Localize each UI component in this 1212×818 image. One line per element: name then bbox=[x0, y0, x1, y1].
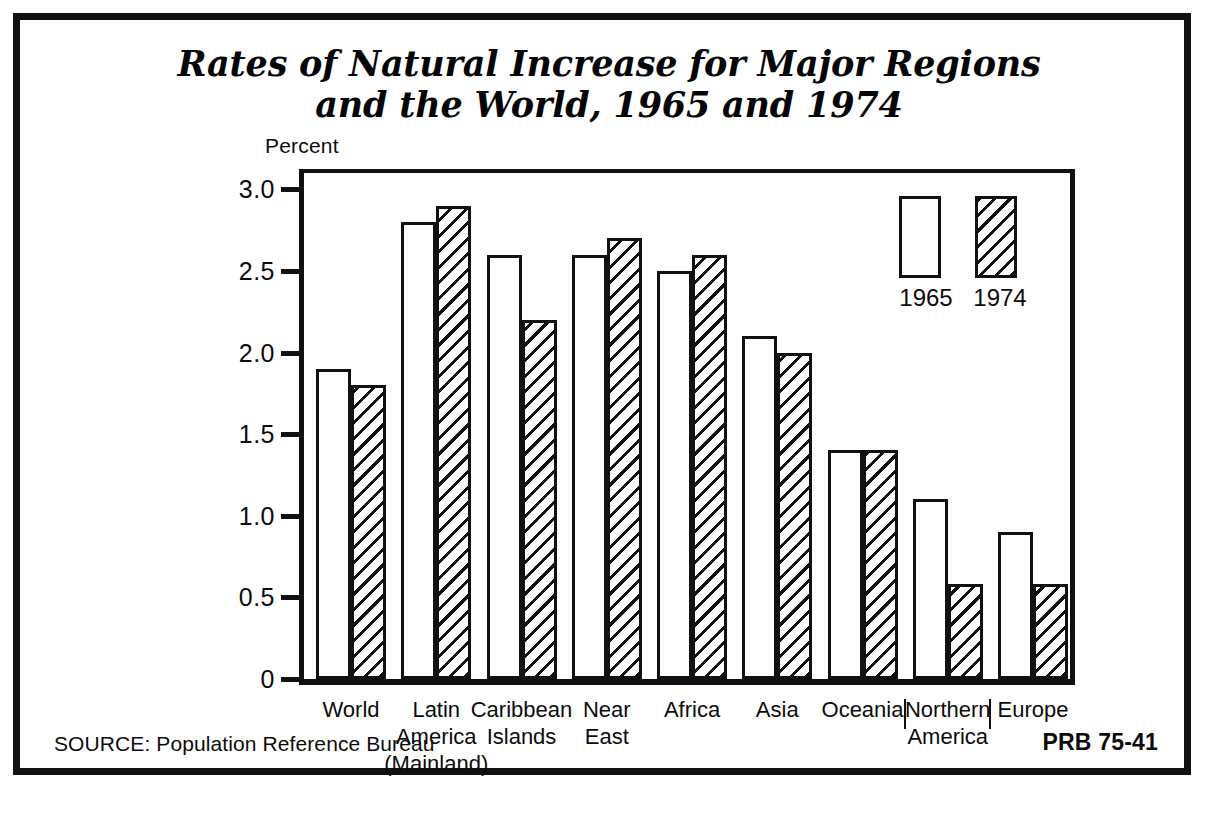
bar-group bbox=[572, 173, 642, 679]
y-axis-tick bbox=[281, 187, 299, 192]
bar-1965 bbox=[913, 499, 948, 679]
y-axis-tick-label: 1.5 bbox=[239, 420, 275, 449]
bar-1965 bbox=[401, 222, 436, 679]
legend-swatches bbox=[899, 196, 1017, 278]
publication-code: PRB 75-41 bbox=[1042, 729, 1158, 756]
bar-1965 bbox=[828, 450, 863, 679]
legend-label-1965: 1965 bbox=[895, 284, 957, 312]
y-axis-tick-label: 3.0 bbox=[239, 175, 275, 204]
y-axis-unit-label: Percent bbox=[265, 134, 339, 158]
chart-title-line-1: Rates of Natural Increase for Major Regi… bbox=[20, 44, 1198, 83]
chart-title-line-2: and the World, 1965 and 1974 bbox=[20, 85, 1198, 124]
y-axis-tick-label: 0 bbox=[261, 665, 275, 694]
bar-group bbox=[316, 173, 386, 679]
category-divider bbox=[904, 699, 906, 729]
bar-group bbox=[401, 173, 471, 679]
bar-1965 bbox=[657, 271, 692, 679]
bar-1965 bbox=[742, 336, 777, 679]
bar-1974 bbox=[863, 450, 898, 679]
bar-1965 bbox=[316, 369, 351, 679]
y-axis-tick bbox=[281, 351, 299, 356]
figure-border: Rates of Natural Increase for Major Regi… bbox=[13, 13, 1191, 775]
figure-page: Rates of Natural Increase for Major Regi… bbox=[0, 0, 1212, 818]
bar-1974 bbox=[948, 584, 983, 679]
y-axis-tick bbox=[281, 677, 299, 682]
legend-swatch-1974 bbox=[975, 196, 1017, 278]
bar-group bbox=[657, 173, 727, 679]
bar-1974 bbox=[436, 206, 471, 679]
bar-1965 bbox=[998, 532, 1033, 679]
x-axis-label-europe: Europe bbox=[943, 697, 1123, 724]
x-axis-label-line: America bbox=[858, 724, 1038, 751]
bar-1974 bbox=[522, 320, 557, 679]
bar-1974 bbox=[607, 238, 642, 679]
bar-group bbox=[828, 173, 898, 679]
chart-title: Rates of Natural Increase for Major Regi… bbox=[20, 44, 1198, 124]
chart-legend: 1965 1974 bbox=[899, 196, 1079, 306]
y-axis-tick bbox=[281, 595, 299, 600]
bar-1974 bbox=[1033, 584, 1068, 679]
legend-swatch-1965 bbox=[899, 196, 941, 278]
source-note: SOURCE: Population Reference Bureau bbox=[54, 732, 435, 756]
x-axis-label-line: Europe bbox=[943, 697, 1123, 724]
y-axis-tick bbox=[281, 269, 299, 274]
bar-group bbox=[487, 173, 557, 679]
y-axis-tick bbox=[281, 432, 299, 437]
bar-group bbox=[742, 173, 812, 679]
bar-1974 bbox=[351, 385, 386, 679]
y-axis-tick-label: 1.0 bbox=[239, 501, 275, 530]
bar-1965 bbox=[487, 255, 522, 679]
y-axis-tick bbox=[281, 514, 299, 519]
x-axis-label-line: East bbox=[517, 724, 697, 751]
legend-labels: 1965 1974 bbox=[895, 284, 1031, 312]
y-axis-tick-label: 2.0 bbox=[239, 338, 275, 367]
bar-1974 bbox=[692, 255, 727, 679]
legend-label-1974: 1974 bbox=[969, 284, 1031, 312]
category-divider bbox=[989, 699, 991, 729]
y-axis-tick-label: 2.5 bbox=[239, 256, 275, 285]
bar-1965 bbox=[572, 255, 607, 679]
y-axis-tick-label: 0.5 bbox=[239, 583, 275, 612]
plot-area: 00.51.01.52.02.53.0 1965 1974 bbox=[299, 169, 1075, 685]
bar-1974 bbox=[777, 353, 812, 679]
